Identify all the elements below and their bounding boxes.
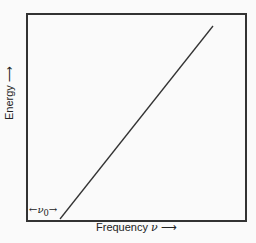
x-axis-arrow-icon: ⟶ [161,221,177,233]
threshold-frequency-label: ←ν0→ [29,204,57,218]
x-axis-label-text: Frequency [96,221,148,233]
x-axis-symbol: ν [151,221,158,234]
y-axis-label: Energy ⟶ [3,66,16,120]
y-axis-label-text: Energy [3,85,15,120]
x-axis-label: Frequency ν ⟶ [96,221,177,234]
y-axis-arrow-icon: ⟶ [3,66,15,82]
right-arrow-icon: → [49,204,57,215]
